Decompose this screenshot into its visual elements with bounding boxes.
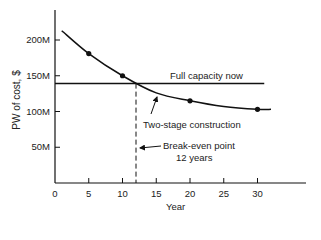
y-axis-ticks [55, 40, 60, 147]
x-tick-label: 20 [180, 189, 200, 199]
two-stage-arrow [151, 97, 157, 114]
y-tick-label: 50M [10, 142, 50, 152]
x-tick-label: 10 [113, 189, 133, 199]
x-tick-label: 30 [248, 189, 268, 199]
full-capacity-label: Full capacity now [170, 71, 243, 81]
data-markers [86, 51, 260, 112]
x-tick-label: 5 [79, 189, 99, 199]
y-axis-label: PW of cost, $ [12, 70, 22, 129]
x-axis-ticks [89, 178, 258, 183]
x-tick-label: 15 [146, 189, 166, 199]
break-even-arrow [140, 146, 161, 148]
y-tick-label: 200M [10, 35, 50, 45]
x-tick-label: 0 [45, 189, 65, 199]
data-point-marker [86, 51, 91, 56]
x-axis-label: Year [166, 202, 185, 212]
break-even-years-label: 12 years [176, 153, 212, 163]
data-point-marker [187, 98, 192, 103]
two-stage-label: Two-stage construction [143, 120, 241, 130]
x-tick-label: 25 [214, 189, 234, 199]
break-even-label: Break-even point [163, 141, 235, 151]
data-point-marker [255, 107, 260, 112]
data-point-marker [120, 73, 125, 78]
